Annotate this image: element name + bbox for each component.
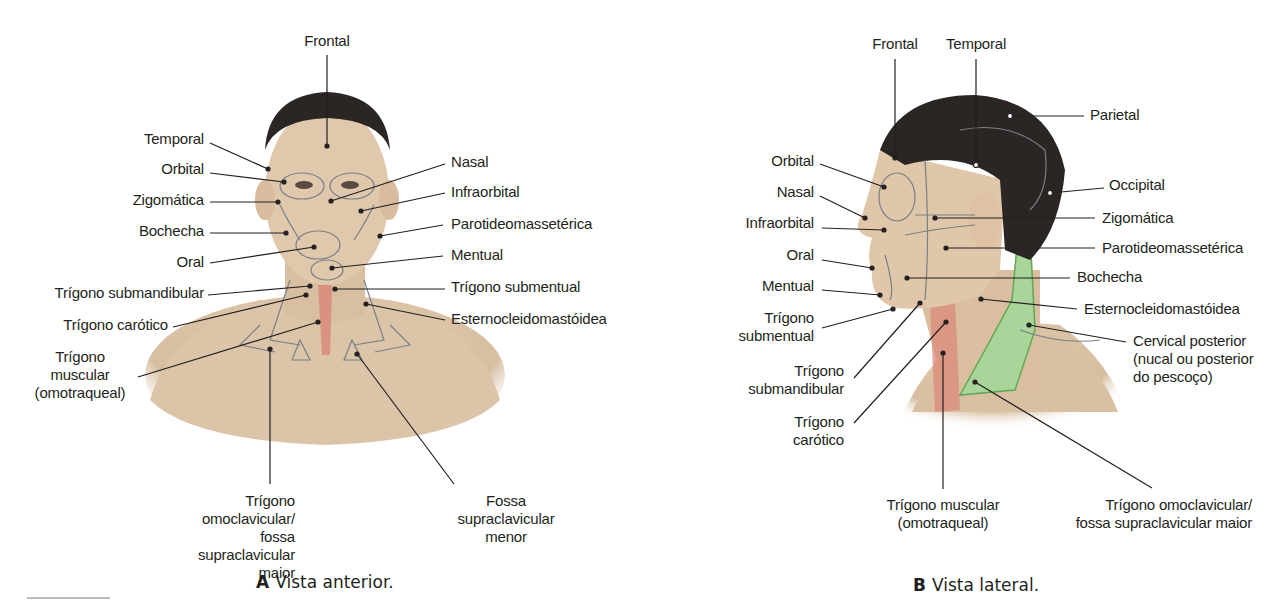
- label-b-zigomatica: Zigomática: [1102, 209, 1173, 227]
- label-b-cervical-posterior: Cervical posterior (nucal ou posterior d…: [1133, 332, 1253, 386]
- label-a-orbital: Orbital: [100, 160, 204, 178]
- label-b-nasal: Nasal: [700, 183, 814, 201]
- label-b-infraorbital: Infraorbital: [700, 214, 814, 232]
- label-a-trigono-submentual: Trígono submentual: [451, 278, 580, 296]
- label-b-parietal: Parietal: [1090, 106, 1139, 124]
- label-a-fossa-supraclavicular-menor: Fossa supraclavicular menor: [450, 492, 562, 546]
- label-a-trigono-submandibular: Trígono submandibular: [20, 284, 204, 302]
- label-a-trigono-carotico: Trígono carótico: [20, 316, 168, 334]
- label-b-bochecha: Bochecha: [1077, 268, 1142, 286]
- label-a-mentual: Mentual: [451, 246, 503, 264]
- caption-a: AVista anterior.: [256, 572, 394, 592]
- label-b-temporal: Temporal: [940, 35, 1012, 53]
- caption-a-text: Vista anterior.: [275, 572, 394, 592]
- caption-b-letter: B: [913, 575, 926, 595]
- caption-b-text: Vista lateral.: [932, 575, 1039, 595]
- caption-a-letter: A: [256, 572, 269, 592]
- label-b-trigono-omoclavicular: Trígono omoclavicular/ fossa supraclavic…: [1050, 496, 1252, 532]
- label-b-esternocleidomastoidea: Esternocleidomastóidea: [1084, 300, 1240, 318]
- label-b-parotideomasseterica: Parotideomassetérica: [1102, 239, 1243, 257]
- label-b-trigono-submentual: Trígono submentual: [700, 309, 814, 345]
- label-b-occipital: Occipital: [1109, 176, 1165, 194]
- caption-b: BVista lateral.: [913, 575, 1039, 595]
- lateral-view-figure: [858, 95, 1130, 430]
- label-a-trigono-muscular: Trígono muscular (omotraqueal): [28, 348, 132, 402]
- label-a-nasal: Nasal: [451, 153, 488, 171]
- label-b-trigono-carotico: Trígono carótico: [730, 413, 844, 449]
- label-b-frontal: Frontal: [865, 35, 925, 53]
- label-a-oral: Oral: [100, 253, 204, 271]
- label-a-parotideomasseterica: Parotideomassetérica: [451, 215, 592, 233]
- label-b-trigono-submandibular: Trígono submandibular: [730, 362, 844, 398]
- label-a-zigomatica: Zigomática: [100, 191, 204, 209]
- label-b-mentual: Mentual: [700, 277, 814, 295]
- label-a-frontal: Frontal: [297, 32, 357, 50]
- label-a-trigono-omoclavicular: Trígono omoclavicular/ fossa supraclavic…: [170, 492, 295, 582]
- footnote-rule: [27, 597, 110, 599]
- label-b-trigono-muscular: Trígono muscular (omotraqueal): [872, 496, 1014, 532]
- label-b-oral: Oral: [700, 246, 814, 264]
- label-b-orbital: Orbital: [700, 152, 814, 170]
- label-a-bochecha: Bochecha: [100, 222, 204, 240]
- label-a-temporal: Temporal: [100, 130, 204, 148]
- label-a-infraorbital: Infraorbital: [451, 183, 519, 201]
- label-a-esternocleidomastoidea: Esternocleidomastóidea: [451, 310, 607, 328]
